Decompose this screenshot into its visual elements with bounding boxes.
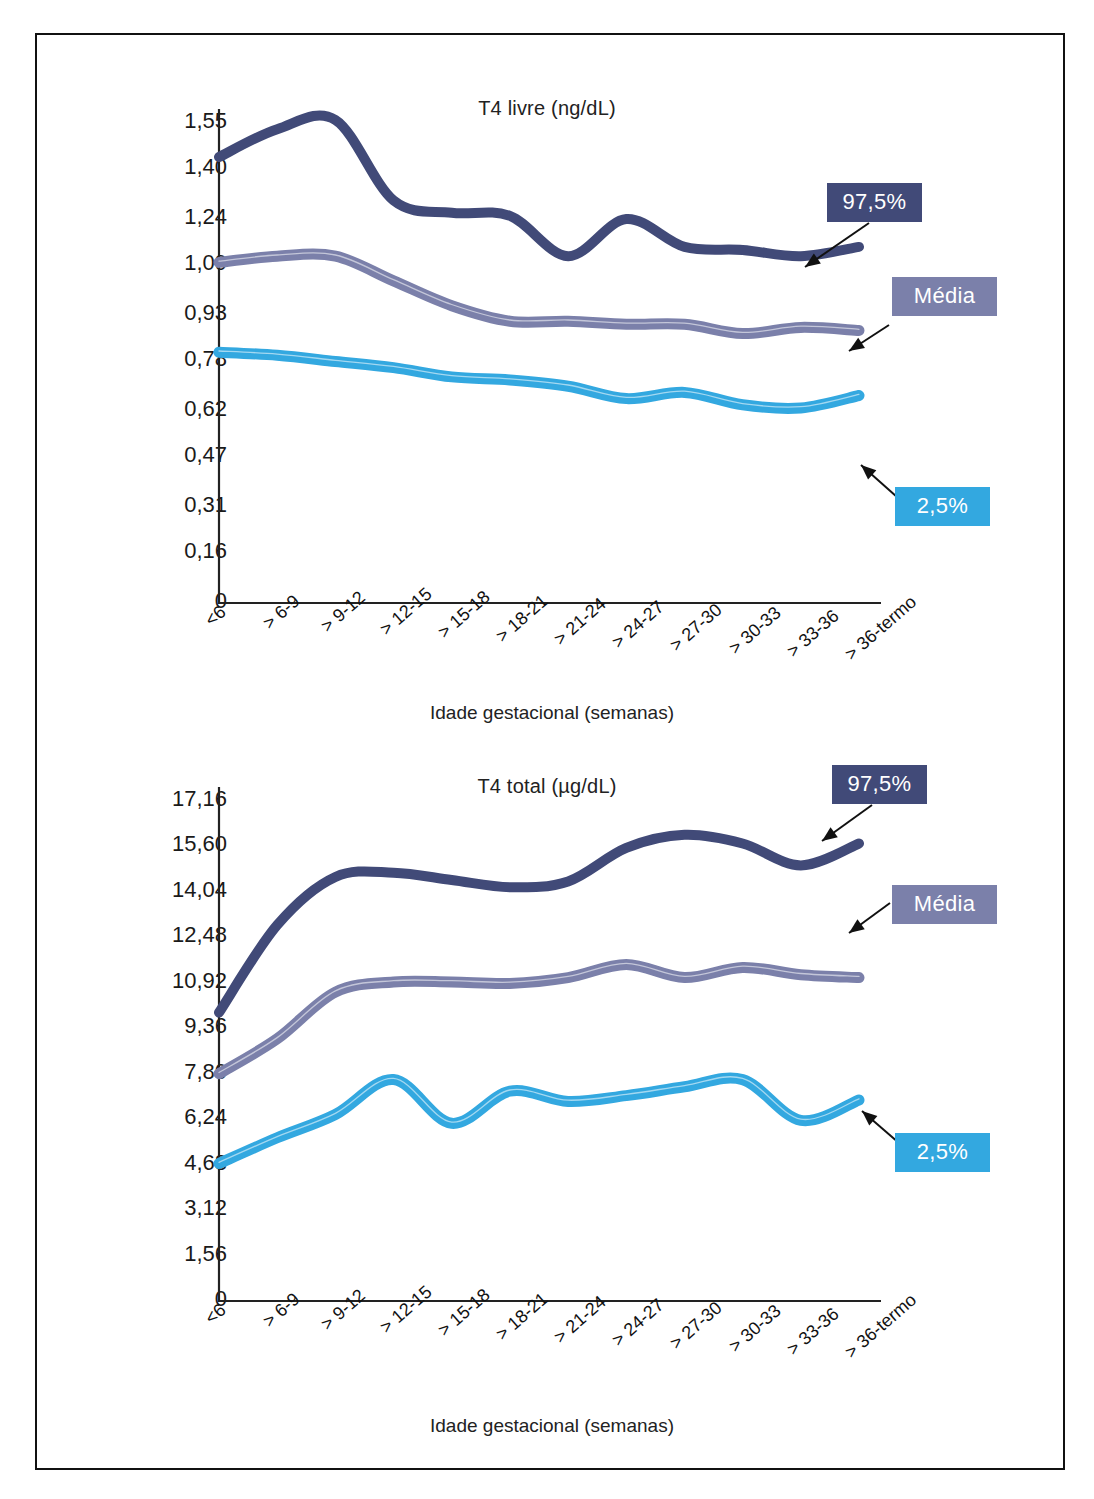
figure-frame: T4 livre (ng/dL) 1,551,401,241,090,930,7…: [35, 33, 1065, 1470]
legend-badge-upper-bottom: 97,5%: [832, 765, 927, 804]
series-lower: [219, 351, 859, 408]
series-upper: [219, 115, 859, 256]
annotation-arrow: [862, 1111, 899, 1143]
annotation-arrow: [822, 805, 872, 841]
plot-svg-top: [37, 55, 1067, 675]
annotation-arrow: [861, 465, 897, 497]
legend-badge-lower-top: 2,5%: [895, 487, 990, 526]
plot-area-bottom: [37, 753, 1067, 1298]
annotation-arrow: [849, 903, 890, 933]
x-axis-title-top: Idade gestacional (semanas): [37, 702, 1067, 724]
plot-svg-bottom: [37, 753, 1067, 1373]
series-mean: [219, 253, 859, 334]
series-lower: [219, 1077, 859, 1164]
legend-badge-lower-bottom: 2,5%: [895, 1133, 990, 1172]
legend-badge-mean-bottom: Média: [892, 885, 997, 924]
chart-t4-total: T4 total (µg/dL) 17,1615,6014,0412,4810,…: [37, 753, 1067, 1453]
series-mean: [219, 963, 859, 1073]
chart-t4-livre: T4 livre (ng/dL) 1,551,401,241,090,930,7…: [37, 55, 1067, 735]
x-axis-title-bottom: Idade gestacional (semanas): [37, 1415, 1067, 1437]
legend-badge-upper-top: 97,5%: [827, 183, 922, 222]
legend-badge-mean-top: Média: [892, 277, 997, 316]
